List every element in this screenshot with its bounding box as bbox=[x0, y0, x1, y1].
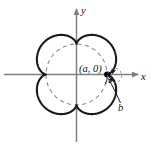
y-axis-label: y bbox=[80, 5, 86, 16]
x-axis-label: x bbox=[140, 71, 146, 82]
point-label: (a, 0) bbox=[79, 63, 102, 75]
epicycloid-figure: (a, 0) b x y bbox=[0, 0, 151, 147]
axes bbox=[4, 9, 138, 142]
radius-label: b bbox=[118, 102, 123, 113]
